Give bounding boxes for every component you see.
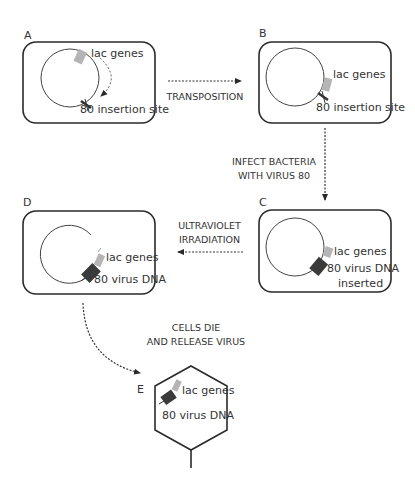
caption-uv-line1: ULTRAVIOLET [172,219,247,233]
label-c-inserted: inserted [338,277,383,290]
label-e-lac-genes: lac genes [182,384,235,397]
label-b-lac-genes: lac genes [333,68,386,81]
label-b-insertion-site: 80 insertion site [316,101,405,114]
label-e-virus-dna: 80 virus DNA [162,409,234,422]
label-c-lac-genes: lac genes [334,245,387,258]
label-d-lac-genes: lac genes [106,251,159,264]
panel-letter-b: B [259,27,267,40]
caption-cells-die: CELLS DIE AND RELEASE VIRUS [140,321,252,349]
virus-dna-icon [309,257,328,276]
lac-gene-icon [94,253,105,267]
label-c-virus-dna: 80 virus DNA [327,262,399,275]
lac-gene-icon [73,49,87,65]
caption-infect-line2: WITH VIRUS 80 [224,169,324,183]
lac-gene-icon [321,77,332,92]
caption-uv-irradiation: ULTRAVIOLET IRRADIATION [172,219,247,247]
label-a-insertion-site: 80 insertion site [80,103,169,116]
caption-infect-bacteria: INFECT BACTERIA WITH VIRUS 80 [224,155,324,183]
caption-infect-line1: INFECT BACTERIA [224,155,324,169]
lac-gene-icon [172,379,182,392]
caption-uv-line2: IRRADIATION [172,233,247,247]
panel-letter-d: D [23,196,31,209]
panel-letter-c: C [259,196,267,209]
virus-dna-icon [160,389,176,405]
label-d-virus-dna: 80 virus DNA [94,273,166,286]
panel-letter-e: E [137,383,144,396]
transposition-arrow-icon [100,58,111,96]
arrow-d-to-e [83,303,140,373]
caption-cells-line2: AND RELEASE VIRUS [140,335,252,349]
caption-cells-line1: CELLS DIE [140,321,252,335]
label-a-lac-genes: lac genes [91,47,144,60]
caption-transposition: TRANSPOSITION [160,90,250,104]
panel-letter-a: A [24,29,32,42]
